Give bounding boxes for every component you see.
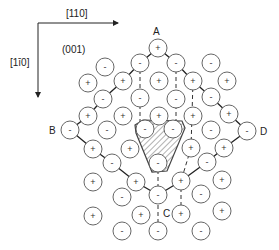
cation-ion: + [127, 173, 145, 191]
ion-sign: + [120, 111, 125, 121]
anion-ion: - [113, 188, 131, 206]
anion-ion: - [202, 88, 220, 106]
cation-ion: + [84, 207, 102, 225]
anion-ion: - [192, 222, 210, 240]
cation-ion: + [149, 39, 167, 57]
axis-1-10-label: [1ī0] [10, 57, 30, 68]
ion-sign: - [157, 158, 160, 168]
ion-sign: - [206, 157, 209, 167]
ion-sign: + [178, 176, 183, 186]
cation-ion: + [213, 171, 231, 189]
ion-sign: + [221, 143, 226, 153]
ion-sign: + [156, 76, 161, 86]
ion-sign: - [175, 58, 178, 68]
ion-sign: + [138, 210, 143, 220]
ion-sign: - [200, 226, 203, 236]
ion-sign: + [85, 78, 90, 88]
anion-ion: - [149, 222, 167, 240]
ion-sign: - [246, 126, 249, 136]
ion-sign: - [157, 226, 160, 236]
plane-label: (001) [62, 44, 85, 55]
ion-sign: - [200, 189, 203, 199]
ion-sign: - [104, 62, 107, 72]
ion-sign: - [111, 158, 114, 168]
ion-sign: + [127, 144, 132, 154]
axes: [110] [1ī0] (001) [10, 8, 118, 97]
anion-ion: - [202, 121, 220, 139]
ion-sign: + [90, 177, 95, 187]
ion-sign: + [188, 143, 193, 153]
anion-ion: - [103, 154, 121, 172]
cation-ion: + [79, 107, 97, 125]
anion-ion: - [149, 154, 167, 172]
cation-ion: + [150, 72, 168, 90]
ion-sign: - [139, 58, 142, 68]
ion-sign: - [121, 192, 124, 202]
ion-sign: + [178, 209, 183, 219]
ion-sign: + [219, 206, 224, 216]
ion-sign: - [210, 92, 213, 102]
axis-110-label: [110] [66, 8, 88, 19]
cation-ion: + [114, 107, 132, 125]
ion-sign: + [190, 111, 195, 121]
corner-label-b: B [49, 125, 56, 136]
cation-ion: + [79, 74, 97, 92]
ion-sign: - [102, 94, 105, 104]
cation-ion: + [213, 202, 231, 220]
anion-ion: - [131, 89, 149, 107]
ion-sign: - [210, 125, 213, 135]
anion-ion: - [131, 54, 149, 72]
crystal-surface-diagram: [110] [1ī0] (001) +----+++++----+++++---… [0, 0, 279, 250]
anion-ion: - [149, 186, 167, 204]
anion-ion: - [136, 120, 154, 138]
cation-ion: + [84, 140, 102, 158]
cation-ion: + [150, 107, 168, 125]
cation-ion: + [184, 107, 202, 125]
cation-ion: + [121, 140, 139, 158]
ion-sign: + [224, 76, 229, 86]
corner-label-d: D [260, 126, 267, 137]
cation-ion: + [172, 172, 190, 190]
cation-ion: + [182, 139, 200, 157]
ion-sign: + [133, 177, 138, 187]
cation-ion: + [215, 139, 233, 157]
anion-ion: - [98, 121, 116, 139]
ion-sign: - [69, 125, 72, 135]
ion-sign: + [219, 175, 224, 185]
ion-sign: - [157, 190, 160, 200]
ion-sign: + [90, 211, 95, 221]
ion-sign: - [210, 58, 213, 68]
ion-sign: - [172, 124, 175, 134]
anion-ion: - [202, 54, 220, 72]
cation-ion: + [172, 205, 190, 223]
anion-ion: - [164, 120, 182, 138]
ion-sign: + [90, 144, 95, 154]
corner-label-c: C [163, 208, 170, 219]
cation-ion: + [218, 72, 236, 90]
ion-sign: - [144, 124, 147, 134]
ion-sign: + [190, 76, 195, 86]
anion-ion: - [61, 121, 79, 139]
ion-sign: + [156, 111, 161, 121]
ion-sign: + [226, 109, 231, 119]
cation-ion: + [184, 72, 202, 90]
ion-sign: - [106, 125, 109, 135]
anion-ion: - [96, 58, 114, 76]
anion-ion: - [167, 90, 185, 108]
ion-sign: + [120, 76, 125, 86]
cation-ion: + [220, 105, 238, 123]
anion-ion: - [167, 54, 185, 72]
ion-sign: - [175, 94, 178, 104]
anion-ion: - [192, 185, 210, 203]
ion-sign: - [139, 93, 142, 103]
cation-ion: + [84, 173, 102, 191]
ion-sign: + [85, 111, 90, 121]
ion-sign: + [155, 43, 160, 53]
anion-ion: - [238, 122, 256, 140]
anion-ion: - [94, 90, 112, 108]
anion-ion: - [113, 222, 131, 240]
ion-sign: - [121, 226, 124, 236]
cation-ion: + [132, 206, 150, 224]
anion-ion: - [198, 153, 216, 171]
corner-label-a: A [153, 26, 160, 37]
